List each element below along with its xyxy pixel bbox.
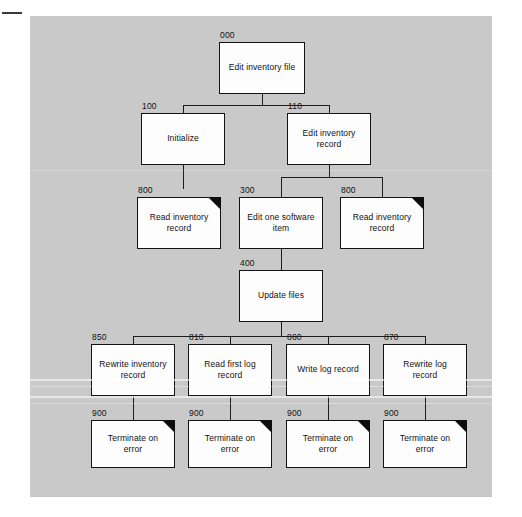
connector-line (425, 336, 426, 344)
process-box-label: Edit one software item (246, 212, 316, 235)
node-reference-id: 860 (287, 332, 302, 342)
process-box-100[interactable]: Initialize (141, 113, 225, 165)
node-reference-id: 800 (341, 185, 356, 195)
connector-line (328, 396, 329, 420)
connector-line (382, 177, 383, 197)
process-box-300[interactable]: Edit one software item (239, 197, 323, 249)
scan-edge-artifact (2, 12, 22, 14)
connector-line (230, 336, 231, 344)
duplicate-module-corner-icon (454, 420, 467, 433)
node-reference-id: 100 (142, 101, 157, 111)
connector-line (230, 396, 231, 420)
node-reference-id: 900 (384, 408, 399, 418)
node-reference-id: 900 (92, 408, 107, 418)
connector-line (425, 396, 426, 420)
connector-line (133, 396, 134, 420)
connector-line (329, 165, 330, 177)
process-box-label: Rewrite log record (390, 359, 460, 382)
process-box-870[interactable]: Rewrite log record (383, 344, 467, 396)
connector-line (281, 249, 282, 270)
process-box-label: Write log record (297, 364, 358, 375)
process-box-110[interactable]: Edit inventory record (287, 113, 371, 165)
process-box-label: Terminate on error (390, 433, 460, 456)
process-box-label: Edit inventory record (294, 128, 364, 151)
connector-line (183, 165, 184, 189)
duplicate-module-corner-icon (162, 420, 175, 433)
node-reference-id: 000 (220, 30, 235, 40)
node-reference-id: 110 (288, 101, 302, 111)
node-reference-id: 900 (189, 408, 204, 418)
process-box-900[interactable]: Terminate on error (286, 420, 370, 468)
process-box-810[interactable]: Read first log record (188, 344, 272, 396)
connector-line (329, 105, 330, 113)
process-box-850[interactable]: Rewrite inventory record (91, 344, 175, 396)
node-reference-id: 400 (240, 258, 255, 268)
process-box-label: Initialize (167, 133, 199, 144)
process-box-800[interactable]: Read inventory record (137, 197, 221, 249)
duplicate-module-corner-icon (208, 197, 221, 210)
process-box-label: Terminate on error (195, 433, 265, 456)
node-reference-id: 300 (240, 185, 255, 195)
duplicate-module-corner-icon (259, 420, 272, 433)
node-reference-id: 800 (138, 185, 153, 195)
process-box-label: Terminate on error (293, 433, 363, 456)
process-box-label: Terminate on error (98, 433, 168, 456)
process-box-label: Edit inventory file (229, 62, 296, 73)
connector-line (183, 105, 184, 113)
process-box-label: Update files (258, 290, 304, 301)
connector-line (183, 105, 329, 106)
process-box-000[interactable]: Edit inventory file (219, 42, 305, 94)
process-box-900[interactable]: Terminate on error (91, 420, 175, 468)
duplicate-module-corner-icon (357, 420, 370, 433)
connector-line (133, 336, 425, 337)
node-reference-id: 810 (189, 332, 204, 342)
process-box-800[interactable]: Read inventory record (340, 197, 424, 249)
node-reference-id: 900 (287, 408, 302, 418)
connector-line (281, 177, 382, 178)
duplicate-module-corner-icon (411, 197, 424, 210)
process-box-label: Read inventory record (144, 212, 214, 235)
connector-line (328, 336, 329, 344)
process-box-860[interactable]: Write log record (286, 344, 370, 396)
connector-line (133, 336, 134, 344)
process-box-label: Rewrite inventory record (98, 359, 168, 382)
node-reference-id: 870 (384, 332, 399, 342)
process-box-900[interactable]: Terminate on error (383, 420, 467, 468)
process-box-900[interactable]: Terminate on error (188, 420, 272, 468)
node-reference-id: 850 (92, 332, 107, 342)
process-box-label: Read inventory record (347, 212, 417, 235)
connector-line (281, 322, 282, 336)
process-box-400[interactable]: Update files (239, 270, 323, 322)
structure-chart-canvas: 000Edit inventory file100Initialize110Ed… (0, 0, 522, 517)
connector-line (281, 177, 282, 197)
process-box-label: Read first log record (195, 359, 265, 382)
